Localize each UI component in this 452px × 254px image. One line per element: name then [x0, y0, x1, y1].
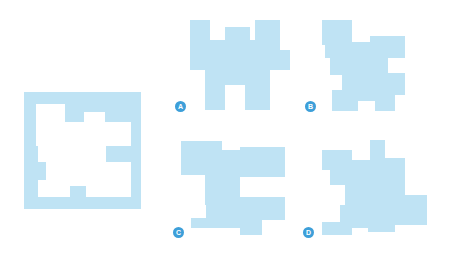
- option-d-shape[interactable]: [322, 140, 427, 235]
- frame-with-hole: [24, 92, 141, 209]
- puzzle-canvas: [0, 0, 452, 254]
- option-c-shape[interactable]: [181, 141, 285, 235]
- option-d-badge[interactable]: D: [303, 227, 314, 238]
- option-b-badge[interactable]: B: [305, 101, 316, 112]
- option-a-badge[interactable]: A: [175, 101, 186, 112]
- option-a-shape[interactable]: [190, 20, 290, 110]
- option-c-badge[interactable]: C: [173, 227, 184, 238]
- option-b-shape[interactable]: [322, 20, 405, 111]
